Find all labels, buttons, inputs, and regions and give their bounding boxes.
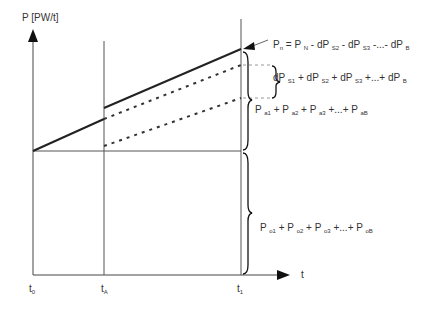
y-axis-arrow-icon [28, 29, 38, 42]
x-axis-arrow-icon [277, 270, 290, 280]
pa-brace-icon [243, 52, 252, 150]
dashed-upper-line [104, 65, 241, 119]
po-brace-icon [243, 153, 252, 274]
tick-ta: tA [101, 283, 108, 295]
pn-formula: Pn = P N - dP S2 - dP S3 -...- dP B [273, 39, 410, 51]
tick-t0: t0 [29, 283, 35, 295]
pa-sum-formula: P a1 + P a2 + P a3 +...+ P aB [255, 104, 368, 116]
po-sum-formula: P o1 + P o2 + P o3 +...+ P oB [260, 222, 373, 234]
dotted-lower-line [104, 98, 241, 146]
y-axis-label: P [PW/t] [22, 12, 59, 23]
tick-t1: t1 [237, 283, 243, 295]
pn-pointer-arrow-icon [243, 42, 255, 50]
solid-ramp-line [33, 119, 104, 151]
x-axis-label: t [301, 269, 304, 280]
dp-sum-formula: dP S1 + dP S2 + dP S3 +...+ dP B [273, 72, 407, 84]
pn-solid-line [104, 49, 241, 108]
